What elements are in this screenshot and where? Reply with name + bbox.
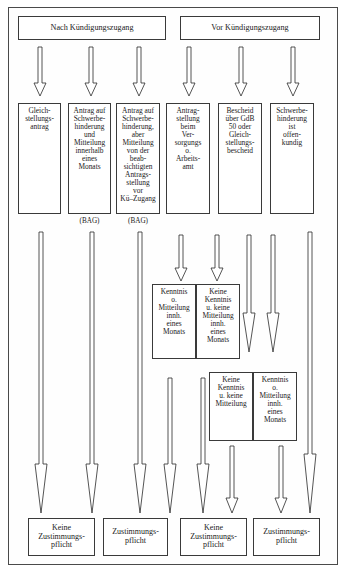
outcome-box-keine-zustimmungspflicht-2: Keine Zustimmungs- pflicht (180, 518, 247, 556)
annotation-label: (BAG) (80, 217, 100, 225)
stage1-box-antragstellung-versorgungsamt: Antrag- stellung beim Ver- sorgungs o. A… (166, 103, 210, 214)
stage1-label: Gleich- stellungs- antrag (25, 107, 54, 131)
outcome-label: Zustimmungs- pflicht (263, 528, 310, 545)
arrow-stage3-keine-kenntnis-to-outcome3 (225, 446, 239, 514)
header-label: Vor Kündigungszugang (211, 24, 288, 33)
stage1-box-offenkundig: Schwerbe- hinderung ist offen- kundig (270, 103, 314, 214)
stage1-box-bescheid-gdb: Bescheid über GdB 50 oder Gleich- stellu… (218, 103, 262, 214)
arrow-box5-to-keine-kenntnis-lower (242, 235, 256, 353)
stage1-box-gleichstellungsantrag: Gleich- stellungs- antrag (18, 103, 61, 214)
arrow-stage2-keine-kenntnis-to-outcome3 (196, 378, 210, 514)
stage3-label: Keine Kenntnis u. keine Mitteilung (215, 376, 246, 408)
stage2-label: Keine Kenntnis u. keine Mitteilung innh.… (202, 288, 233, 344)
outcome-label: Zustimmungs- pflicht (112, 528, 159, 545)
annotation-bag-1: (BAG) (68, 217, 111, 225)
stage3-box-keine-kenntnis-keine-mitteilung: Keine Kenntnis u. keine Mitteilung (209, 372, 253, 441)
arrow-stage3-kenntnis-to-outcome4 (274, 446, 288, 514)
stage1-label: Bescheid über GdB 50 oder Gleich- stellu… (226, 107, 255, 155)
outcome-box-keine-zustimmungspflicht-1: Keine Zustimmungs- pflicht (28, 518, 95, 556)
arrow-header-to-box-1 (32, 47, 48, 97)
stage2-box-kenntnis-mitteilung: Kenntnis o. Mitteilung innh. eines Monat… (152, 284, 196, 359)
outcome-box-zustimmungspflicht-1: Zustimmungs- pflicht (103, 518, 168, 556)
diagram-canvas: Nach Kündigungszugang Vor Kündigungszuga… (0, 0, 346, 573)
stage3-label: Kenntnis o. Mitteilung innh. eines Monat… (259, 376, 290, 424)
stage2-label: Kenntnis o. Mitteilung innh. eines Monat… (158, 288, 189, 336)
arrow-box5-to-kenntnis-lower (266, 235, 280, 353)
stage1-box-antrag-mitteilung-innerhalb: Antrag auf Schwerbe- hinderung und Mitte… (68, 103, 111, 214)
stage1-label: Antrag auf Schwerbe- hinderung, aber Mit… (120, 107, 155, 203)
stage1-label: Antrag auf Schwerbe- hinderung und Mitte… (74, 107, 106, 171)
annotation-bag-2: (BAG) (116, 217, 160, 225)
outcome-label: Keine Zustimmungs- pflicht (38, 524, 85, 550)
arrow-box3-to-outcome2 (133, 232, 147, 514)
outcome-label: Keine Zustimmungs- pflicht (190, 524, 237, 550)
header-box-nach-kuendigungszugang: Nach Kündigungszugang (18, 16, 166, 40)
arrow-box1-to-outcome1 (34, 232, 48, 514)
arrow-box4-to-kenntnis (174, 235, 188, 282)
arrow-header-to-box-6 (285, 47, 301, 97)
annotation-label: (BAG) (128, 217, 148, 225)
arrow-header-to-box-5 (233, 47, 249, 97)
arrow-box2-to-outcome1 (85, 232, 99, 514)
arrow-header-to-box-2 (83, 47, 99, 97)
stage3-box-kenntnis-mitteilung: Kenntnis o. Mitteilung innh. eines Monat… (253, 372, 297, 441)
stage1-label: Schwerbe- hinderung ist offen- kundig (276, 107, 308, 147)
header-label: Nach Kündigungszugang (51, 24, 134, 33)
stage1-label: Antrag- stellung beim Ver- sorgungs o. A… (175, 107, 202, 171)
header-box-vor-kuendigungszugang: Vor Kündigungszugang (180, 16, 320, 40)
outcome-box-zustimmungspflicht-2: Zustimmungs- pflicht (253, 518, 320, 556)
arrow-header-to-box-3 (131, 47, 147, 97)
arrow-box6-to-outcome4 (303, 232, 317, 514)
stage1-box-antrag-mitteilung-vor: Antrag auf Schwerbe- hinderung, aber Mit… (116, 103, 160, 214)
stage2-box-keine-kenntnis-keine-mitteilung: Keine Kenntnis u. keine Mitteilung innh.… (196, 284, 240, 359)
arrow-stage2-kenntnis-to-outcome2 (163, 378, 177, 514)
arrow-box4-to-keine-kenntnis (210, 235, 224, 282)
arrow-header-to-box-4 (181, 47, 197, 97)
